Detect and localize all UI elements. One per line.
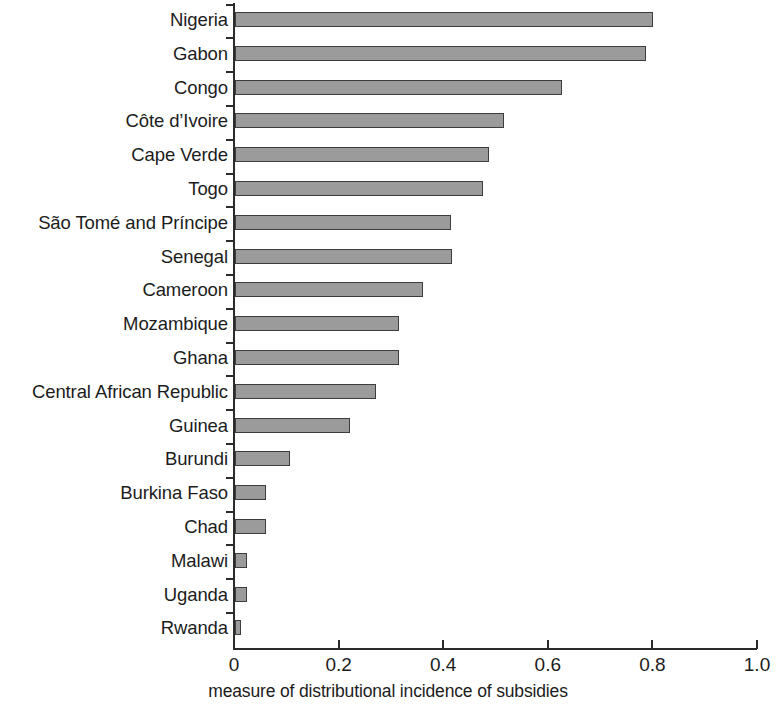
category-label: Rwanda xyxy=(0,611,228,645)
x-axis-title: measure of distributional incidence of s… xyxy=(0,680,776,702)
x-axis-tick-label: 0.2 xyxy=(299,652,379,678)
bar-row: Central African Republic xyxy=(0,375,776,409)
category-label: Uganda xyxy=(0,578,228,612)
category-label: Mozambique xyxy=(0,307,228,341)
bar xyxy=(235,316,399,331)
x-axis-tick-label: 0.4 xyxy=(403,652,483,678)
bar xyxy=(235,553,247,568)
x-axis-tick xyxy=(233,640,235,649)
x-axis-tick xyxy=(756,640,758,649)
bar-chart: NigeriaGabonCongoCôte d’IvoireCape Verde… xyxy=(0,0,776,714)
bar xyxy=(235,587,247,602)
category-label: Nigeria xyxy=(0,3,228,37)
bar-row: Guinea xyxy=(0,409,776,443)
bar xyxy=(235,350,399,365)
bar xyxy=(235,384,376,399)
bar xyxy=(235,12,653,27)
x-axis-tick xyxy=(442,640,444,649)
bar-row: Chad xyxy=(0,510,776,544)
category-label: Cameroon xyxy=(0,273,228,307)
bar-row: Togo xyxy=(0,172,776,206)
category-label: Côte d’Ivoire xyxy=(0,104,228,138)
x-axis-tick xyxy=(338,640,340,649)
category-label: Senegal xyxy=(0,240,228,274)
bar-row: Cameroon xyxy=(0,273,776,307)
bar xyxy=(235,215,451,230)
bar xyxy=(235,147,489,162)
x-axis-tick-label: 1.0 xyxy=(717,652,776,678)
x-axis-tick xyxy=(651,640,653,649)
bar-row: Ghana xyxy=(0,341,776,375)
bar-row: Gabon xyxy=(0,37,776,71)
bar xyxy=(235,282,423,297)
bar xyxy=(235,46,646,61)
category-label: Burkina Faso xyxy=(0,476,228,510)
bar-row: São Tomé and Príncipe xyxy=(0,206,776,240)
category-label: Malawi xyxy=(0,544,228,578)
bar-row: Cape Verde xyxy=(0,138,776,172)
bar-row: Nigeria xyxy=(0,3,776,37)
category-label: Togo xyxy=(0,172,228,206)
bar-row: Uganda xyxy=(0,578,776,612)
category-label: Gabon xyxy=(0,37,228,71)
category-label: Cape Verde xyxy=(0,138,228,172)
bar xyxy=(235,249,452,264)
bar-row: Burkina Faso xyxy=(0,476,776,510)
x-axis-tick-label: 0.8 xyxy=(612,652,692,678)
category-label: Ghana xyxy=(0,341,228,375)
bar xyxy=(235,451,290,466)
bar-row: Côte d’Ivoire xyxy=(0,104,776,138)
category-label: Central African Republic xyxy=(0,375,228,409)
x-axis-tick-label: 0 xyxy=(194,652,274,678)
bar-row: Malawi xyxy=(0,544,776,578)
x-axis-line xyxy=(233,648,757,650)
bar xyxy=(235,80,562,95)
bar-row: Rwanda xyxy=(0,611,776,645)
bar-row: Senegal xyxy=(0,240,776,274)
bar xyxy=(235,620,241,635)
bar-row: Mozambique xyxy=(0,307,776,341)
category-label: Chad xyxy=(0,510,228,544)
category-label: São Tomé and Príncipe xyxy=(0,206,228,240)
x-axis-tick xyxy=(547,640,549,649)
category-label: Congo xyxy=(0,71,228,105)
category-label: Guinea xyxy=(0,409,228,443)
x-axis-tick-label: 0.6 xyxy=(508,652,588,678)
bar xyxy=(235,418,350,433)
bar xyxy=(235,113,504,128)
bar xyxy=(235,181,483,196)
bar xyxy=(235,519,266,534)
bar-row: Burundi xyxy=(0,442,776,476)
bar-row: Congo xyxy=(0,71,776,105)
bar xyxy=(235,485,266,500)
category-label: Burundi xyxy=(0,442,228,476)
